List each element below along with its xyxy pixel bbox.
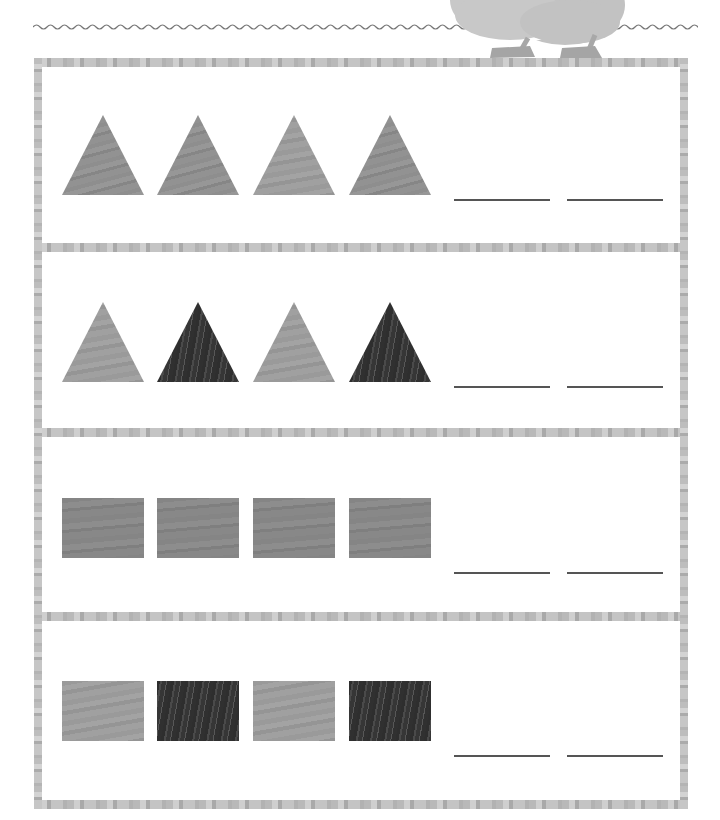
triangle-light: [157, 115, 239, 195]
triangle-light: [253, 302, 335, 382]
bird-feet-illustration: [440, 0, 630, 60]
rectangle-light: [253, 681, 335, 741]
answer-blank-1[interactable]: [454, 386, 550, 388]
frame-top: [34, 58, 688, 67]
rectangle-light: [62, 681, 144, 741]
answer-blank-1[interactable]: [454, 755, 550, 757]
triangle-light: [349, 115, 431, 195]
row-divider-1: [34, 243, 688, 252]
answer-blank-1[interactable]: [454, 199, 550, 201]
triangle-dark: [349, 302, 431, 382]
pattern-row-3: [42, 437, 680, 612]
frame-left: [34, 58, 42, 809]
rectangle-dark: [349, 681, 431, 741]
answer-blank-2[interactable]: [567, 199, 663, 201]
pattern-row-1: [42, 67, 680, 243]
frame-right: [680, 58, 688, 809]
rectangle-light: [349, 498, 431, 558]
rectangle-light: [157, 498, 239, 558]
triangle-light: [62, 115, 144, 195]
pattern-row-4: [42, 621, 680, 800]
pattern-row-2: [42, 252, 680, 428]
triangle-dark: [157, 302, 239, 382]
answer-blank-2[interactable]: [567, 755, 663, 757]
answer-blank-2[interactable]: [567, 386, 663, 388]
triangle-light: [253, 115, 335, 195]
rectangle-light: [253, 498, 335, 558]
answer-blank-2[interactable]: [567, 572, 663, 574]
row-divider-2: [34, 428, 688, 437]
frame-bottom: [34, 800, 688, 809]
row-divider-3: [34, 612, 688, 621]
rectangle-light: [62, 498, 144, 558]
answer-blank-1[interactable]: [454, 572, 550, 574]
rectangle-dark: [157, 681, 239, 741]
triangle-light: [62, 302, 144, 382]
